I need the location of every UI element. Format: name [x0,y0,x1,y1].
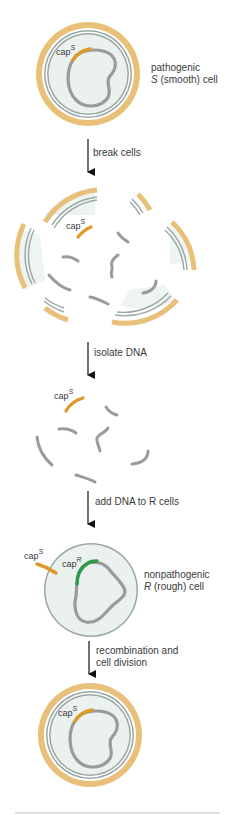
r-cell-label: nonpathogenic R (rough) cell [144,569,210,593]
s-cell-top [36,22,140,126]
step-break-cells: break cells [93,147,141,159]
gene-name: cap [66,221,81,231]
gene-name: cap [24,551,39,561]
s-cell-label-line2: S (smooth) cell [151,74,218,86]
s-cell-result [38,683,142,787]
gene-superscript: S [81,218,86,225]
step-add-dna: add DNA to R cells [95,496,179,508]
s-italic: S [151,74,158,85]
gene-name: cap [54,391,69,401]
capS-label-result: capS [58,705,77,718]
step-recombination-line1: recombination and [96,645,178,657]
r-cell [37,543,138,637]
r-cell-label-line1: nonpathogenic [144,569,210,581]
gene-superscript: S [69,388,74,395]
capS-label-top: capS [56,44,75,57]
transformation-diagram [0,0,230,815]
gene-superscript: S [71,44,76,51]
capS-label-isolated: capS [54,388,73,401]
s-rest: (smooth) cell [158,74,218,85]
gene-superscript: S [39,548,44,555]
r-cell-label-line2: R (rough) cell [144,581,210,593]
gene-name: cap [58,708,73,718]
gene-name: cap [62,559,77,569]
step-isolate-dna: isolate DNA [94,347,147,359]
step-recombination: recombination and cell division [96,645,178,669]
s-cell-label-line1: pathogenic [151,62,218,74]
capS-label-added: capS [24,548,43,561]
r-rest: (rough) cell [151,581,204,592]
step-recombination-line2: cell division [96,657,178,669]
gene-superscript: S [73,705,78,712]
capS-label-broken: capS [66,218,85,231]
isolated-dna [37,398,148,482]
broken-cells [16,190,194,323]
gene-superscript: R [77,556,82,563]
capR-label: capR [62,556,82,569]
gene-name: cap [56,47,71,57]
s-cell-label: pathogenic S (smooth) cell [151,62,218,86]
